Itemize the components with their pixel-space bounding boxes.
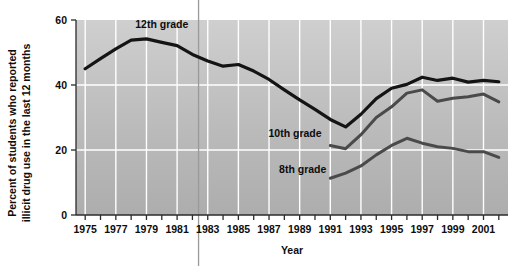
chart-figure: 0204060 19751977197919811983198519871989… bbox=[0, 0, 528, 266]
x-tick-label: 1979 bbox=[135, 223, 159, 235]
line-chart: 0204060 19751977197919811983198519871989… bbox=[0, 0, 528, 266]
plot-area-background bbox=[76, 20, 508, 215]
x-tick-label: 1989 bbox=[288, 223, 312, 235]
x-tick-label: 1981 bbox=[165, 223, 189, 235]
x-tick-label: 1999 bbox=[441, 223, 465, 235]
x-tick-label: 1995 bbox=[380, 223, 404, 235]
x-axis-title: Year bbox=[281, 244, 303, 256]
x-tick-label: 1977 bbox=[104, 223, 128, 235]
x-tick-label: 1993 bbox=[349, 223, 373, 235]
y-tick-label: 60 bbox=[55, 14, 67, 26]
y-axis-title-line-1: Percent of students who reported bbox=[6, 49, 18, 216]
x-tick-label: 1975 bbox=[74, 223, 98, 235]
y-tick-label: 0 bbox=[61, 209, 67, 221]
x-tick-label: 1983 bbox=[196, 223, 220, 235]
series-label-8th-grade: 8th grade bbox=[279, 163, 326, 175]
x-tick-label: 1991 bbox=[319, 223, 343, 235]
x-tick-label: 1997 bbox=[411, 223, 435, 235]
y-tick-label: 40 bbox=[55, 79, 67, 91]
x-tick-label: 2001 bbox=[472, 223, 496, 235]
y-tick-label: 20 bbox=[55, 144, 67, 156]
y-axis-title-line-2: illicit drug use in the last 12 months bbox=[20, 44, 32, 223]
series-label-12th-grade: 12th grade bbox=[135, 18, 188, 30]
x-tick-label: 1985 bbox=[227, 223, 251, 235]
x-tick-label: 1987 bbox=[257, 223, 281, 235]
series-label-10th-grade: 10th grade bbox=[269, 127, 322, 139]
